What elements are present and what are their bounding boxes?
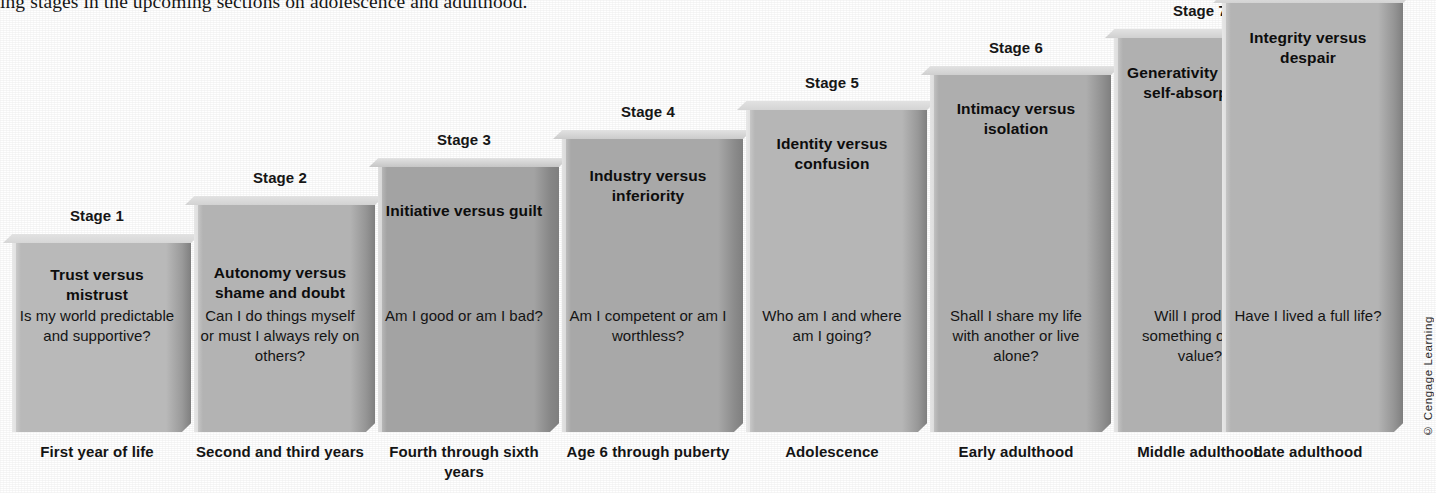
stage-question-5: Who am I and where am I going? — [752, 306, 912, 346]
stage-question-2: Can I do things myself or must I always … — [200, 306, 360, 365]
stage-crisis-8: Integrity versus despair — [1228, 28, 1388, 68]
stage-column-6: Stage 6Intimacy versus isolationShall I … — [930, 0, 1102, 493]
copyright-notice: © Cengage Learning — [1422, 316, 1434, 437]
block-top-face-4 — [553, 130, 752, 139]
stage-caption-1: Stage 1 — [12, 207, 182, 224]
stage-caption-4: Stage 4 — [562, 103, 734, 120]
block-side-face-1 — [182, 234, 191, 432]
block-left-edge-4 — [562, 139, 566, 432]
block-side-face-5 — [918, 101, 927, 432]
block-left-edge-7 — [1114, 38, 1118, 432]
stage-column-1: Stage 1Trust versus mistrustIs my world … — [12, 0, 182, 493]
stage-age-label-1: First year of life — [6, 442, 188, 462]
stage-age-label-5: Adolescence — [740, 442, 924, 462]
stage-block-6: Intimacy versus isolationShall I share m… — [930, 75, 1102, 432]
block-side-face-8 — [1394, 0, 1403, 432]
stage-question-3: Am I good or am I bad? — [384, 306, 544, 326]
stage-age-label-4: Age 6 through puberty — [556, 442, 740, 462]
block-top-face-6 — [921, 66, 1120, 75]
block-text-1: Trust versus mistrustIs my world predict… — [18, 243, 176, 432]
stage-age-label-8: Late adulthood — [1216, 442, 1400, 462]
stage-age-label-2: Second and third years — [188, 442, 372, 462]
stage-caption-2: Stage 2 — [194, 169, 366, 186]
stage-question-6: Shall I share my life with another or li… — [936, 306, 1096, 365]
block-left-edge-1 — [12, 243, 16, 432]
block-top-face-5 — [737, 101, 936, 110]
stage-age-label-3: Fourth through sixth years — [372, 442, 556, 483]
block-left-edge-5 — [746, 110, 750, 432]
stage-age-label-6: Early adulthood — [924, 442, 1108, 462]
stage-question-1: Is my world predictable and supportive? — [18, 306, 176, 346]
block-top-face-1 — [3, 234, 200, 243]
stage-question-4: Am I competent or am I worthless? — [568, 306, 728, 346]
stage-caption-3: Stage 3 — [378, 131, 550, 148]
stage-column-2: Stage 2Autonomy versus shame and doubtCa… — [194, 0, 366, 493]
block-text-2: Autonomy versus shame and doubtCan I do … — [200, 205, 360, 432]
block-left-edge-2 — [194, 205, 198, 432]
block-text-3: Initiative versus guiltAm I good or am I… — [384, 167, 544, 432]
stage-column-5: Stage 5Identity versus confusionWho am I… — [746, 0, 918, 493]
stage-caption-6: Stage 6 — [930, 39, 1102, 56]
block-top-face-2 — [185, 196, 384, 205]
block-left-edge-8 — [1222, 3, 1226, 432]
block-top-face-3 — [369, 158, 568, 167]
block-side-face-6 — [1102, 66, 1111, 432]
stage-crisis-5: Identity versus confusion — [752, 134, 912, 174]
block-text-5: Identity versus confusionWho am I and wh… — [752, 110, 912, 432]
stage-crisis-1: Trust versus mistrust — [18, 265, 176, 305]
stage-crisis-3: Initiative versus guilt — [386, 201, 542, 221]
stage-question-8: Have I lived a full life? — [1228, 306, 1388, 326]
stage-crisis-6: Intimacy versus isolation — [936, 99, 1096, 139]
stage-block-4: Industry versus inferiorityAm I competen… — [562, 139, 734, 432]
stage-block-8: Integrity versus despairHave I lived a f… — [1222, 3, 1394, 432]
stage-caption-5: Stage 5 — [746, 74, 918, 91]
stage-column-4: Stage 4Industry versus inferiorityAm I c… — [562, 0, 734, 493]
stage-block-2: Autonomy versus shame and doubtCan I do … — [194, 205, 366, 432]
block-text-6: Intimacy versus isolationShall I share m… — [936, 75, 1096, 432]
stage-crisis-4: Industry versus inferiority — [568, 166, 728, 206]
block-side-face-2 — [366, 196, 375, 432]
block-left-edge-6 — [930, 75, 934, 432]
stage-column-8: Integrity versus despairHave I lived a f… — [1222, 0, 1394, 493]
block-text-4: Industry versus inferiorityAm I competen… — [568, 139, 728, 432]
stage-crisis-2: Autonomy versus shame and doubt — [200, 263, 360, 303]
stage-column-3: Stage 3Initiative versus guiltAm I good … — [378, 0, 550, 493]
block-side-face-4 — [734, 130, 743, 432]
stage-block-5: Identity versus confusionWho am I and wh… — [746, 110, 918, 432]
stage-block-3: Initiative versus guiltAm I good or am I… — [378, 167, 550, 432]
erikson-stages-diagram: Stage 1Trust versus mistrustIs my world … — [0, 0, 1436, 493]
block-text-8: Integrity versus despairHave I lived a f… — [1228, 3, 1388, 432]
block-side-face-3 — [550, 158, 559, 432]
stage-block-1: Trust versus mistrustIs my world predict… — [12, 243, 182, 432]
block-left-edge-3 — [378, 167, 382, 432]
